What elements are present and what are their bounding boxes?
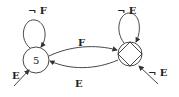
state-diagram: 5 ¬ F F E ¬ E E ¬ E [0, 0, 179, 97]
transition-s-self [23, 20, 45, 48]
transition-s-t [49, 47, 117, 56]
state-s-label: 5 [33, 55, 39, 66]
transition-t-s-label: E [75, 78, 83, 89]
state-t [118, 42, 142, 66]
transition-s-self-label: ¬ F [28, 5, 47, 16]
transition-t-self-label: ¬ E [117, 5, 137, 16]
entry-arrow-t-label: ¬ E [148, 67, 168, 78]
transition-s-t-label: F [78, 37, 85, 48]
transition-t-s [50, 60, 118, 68]
transition-t-self [119, 13, 140, 43]
entry-arrow-s-label: E [12, 70, 20, 81]
